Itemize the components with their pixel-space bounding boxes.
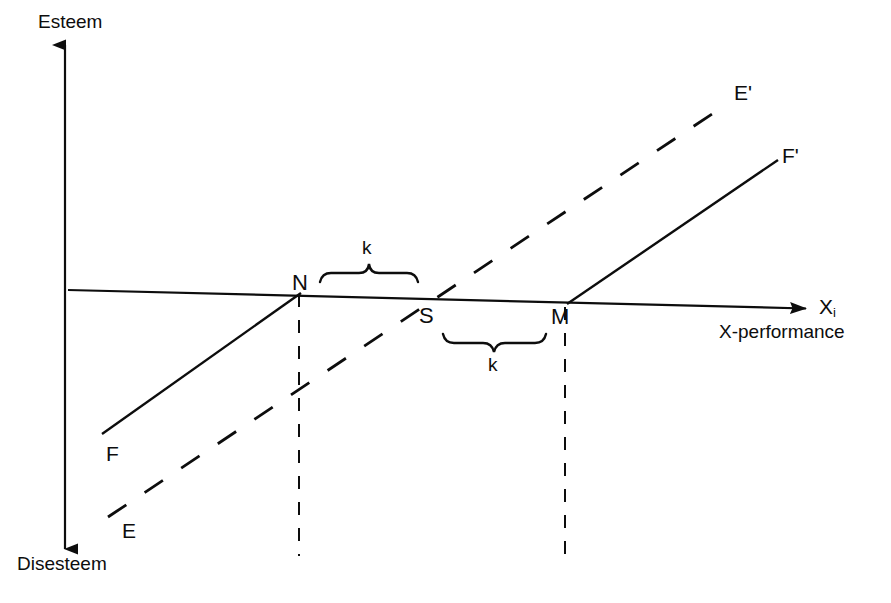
brace-upper-k	[320, 264, 418, 282]
curve-F-end-label: F'	[782, 145, 799, 166]
esteem-axis-label: Esteem	[38, 12, 102, 31]
brace-lower-k	[443, 334, 546, 352]
curve-F-segment-left	[102, 293, 301, 434]
diagram-canvas	[0, 0, 891, 603]
x-performance-caption: X-performance	[719, 322, 845, 341]
point-label-S: S	[419, 305, 434, 327]
curve-F-segment-right	[567, 160, 778, 304]
x-axis-symbol: X	[819, 295, 833, 318]
brace-upper-label-k: k	[362, 238, 372, 257]
curve-E-start-label: E	[122, 520, 136, 541]
point-label-N: N	[292, 272, 308, 294]
curve-E-end-label: E'	[734, 82, 752, 103]
brace-lower-label-k: k	[488, 355, 498, 374]
curve-E-dashed	[108, 104, 727, 517]
disesteem-axis-label: Disesteem	[17, 554, 107, 573]
x-axis-subscript: i	[833, 305, 836, 320]
curve-F-start-label: F	[106, 443, 119, 464]
esteem-performance-diagram: Esteem Disesteem Xi X-performance F F' E…	[0, 0, 891, 603]
x-axis-symbol-label: Xi	[819, 296, 836, 319]
point-label-M: M	[551, 306, 569, 328]
horizontal-axis-line	[68, 290, 806, 309]
